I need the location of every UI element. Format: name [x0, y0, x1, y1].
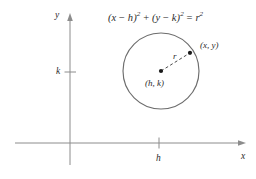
equation-minus-1: −: [116, 12, 127, 23]
point-label-xy: (x, y): [200, 41, 218, 50]
y-axis: [65, 13, 77, 165]
figure-canvas: [0, 0, 256, 179]
x-axis-label: x: [241, 152, 245, 162]
circle-point-dot: [188, 51, 192, 55]
x-axis: [15, 138, 246, 149]
y-axis-label: y: [55, 11, 59, 21]
circle-equation-figure: (x − h)2 + (y − k)2 = r2 y x k h (x, y) …: [0, 0, 256, 179]
circle-equation: (x − h)2 + (y − k)2 = r2: [108, 11, 203, 23]
center-point-dot: [159, 69, 163, 73]
equation-equals: =: [184, 12, 195, 23]
y-axis-arrowhead: [67, 13, 73, 21]
y-tick-label-k: k: [56, 67, 60, 77]
equation-plus: +: [141, 12, 152, 23]
x-axis-arrowhead: [238, 140, 246, 146]
radius-label-r: r: [173, 52, 177, 61]
center-label-hk: (h, k): [145, 79, 164, 88]
equation-minus-2: −: [160, 12, 171, 23]
equation-exponent-3: 2: [200, 10, 204, 18]
x-tick-label-h: h: [156, 154, 161, 164]
